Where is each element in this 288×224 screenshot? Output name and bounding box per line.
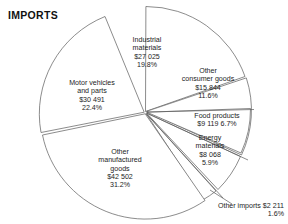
pie-label-other-manufactured-goods: Other manufactured goods $42 502 31.2% bbox=[78, 148, 162, 189]
pie-slice-motor-vehicles-and-parts bbox=[39, 17, 144, 133]
label-value: $30 491 bbox=[55, 96, 129, 104]
label-line: goods bbox=[78, 165, 162, 173]
label-percent: 19.8% bbox=[116, 61, 178, 69]
label-line: and parts bbox=[55, 87, 129, 95]
label-line: consumer goods bbox=[170, 75, 246, 83]
label-percent: 1.6% bbox=[196, 210, 284, 218]
label-percent: 31.2% bbox=[78, 181, 162, 189]
label-line: Energy bbox=[182, 134, 238, 142]
label-percent: 22.4% bbox=[55, 104, 129, 112]
pie-label-motor-vehicles-and-parts: Motor vehicles and parts $30 491 22.4% bbox=[55, 79, 129, 112]
imports-pie-chart-figure: IMPORTS Industrial materials bbox=[0, 0, 288, 224]
label-line: Other bbox=[170, 67, 246, 75]
label-value: $27 025 bbox=[116, 53, 178, 61]
label-line-value: Other imports $2 211 bbox=[196, 202, 284, 210]
pie-label-other-imports: Other imports $2 211 1.6% bbox=[196, 202, 284, 219]
label-line: Other bbox=[78, 148, 162, 156]
pie-label-industrial-materials: Industrial materials $27 025 19.8% bbox=[116, 36, 178, 69]
pie-label-other-consumer-goods: Other consumer goods $15 844 11.6% bbox=[170, 67, 246, 100]
label-line: Food products bbox=[178, 112, 256, 120]
label-percent: 11.6% bbox=[170, 92, 246, 100]
label-line: materials bbox=[182, 142, 238, 150]
pie-label-food-products: Food products $9 119 6.7% bbox=[178, 112, 256, 129]
label-line: manufactured bbox=[78, 156, 162, 164]
label-value-percent: $9 119 6.7% bbox=[178, 120, 256, 128]
pie-label-energy-materials: Energy materials $8 068 5.9% bbox=[182, 134, 238, 167]
label-line: Industrial bbox=[116, 36, 178, 44]
label-value: $15 844 bbox=[170, 84, 246, 92]
label-value: $42 502 bbox=[78, 173, 162, 181]
label-value: $8 068 bbox=[182, 151, 238, 159]
label-percent: 5.9% bbox=[182, 159, 238, 167]
label-line: Motor vehicles bbox=[55, 79, 129, 87]
label-line: materials bbox=[116, 44, 178, 52]
